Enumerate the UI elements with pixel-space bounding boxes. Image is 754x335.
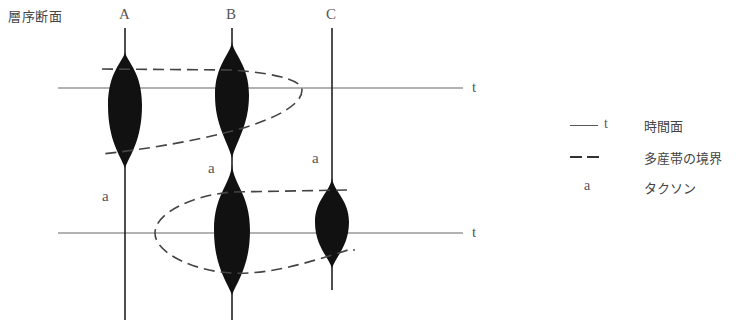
taxon-label-a-section-b: a — [208, 160, 215, 177]
stratigraphic-diagram — [0, 0, 754, 335]
legend-item-time-plane: t 時間面 — [570, 115, 683, 135]
legend-symbol-a: a — [584, 178, 590, 194]
solid-line-sample — [570, 125, 598, 126]
taxon-label-a-section-a: a — [102, 188, 109, 205]
section-label-c: C — [326, 6, 336, 23]
time-plane-label-upper: t — [472, 79, 476, 96]
legend-label-taxon: タクソン — [644, 178, 696, 197]
legend-label-boundary: 多産帯の境界 — [644, 148, 722, 167]
boundary-endpoint-dot — [353, 249, 355, 251]
legend-symbol-t: t — [604, 116, 608, 132]
legend-item-taxon: a タクソン — [570, 177, 696, 197]
dash-segment — [570, 156, 582, 158]
time-plane-label-lower: t — [472, 224, 476, 241]
section-label-b: B — [226, 6, 236, 23]
acme-zone-b-lower — [214, 165, 250, 295]
legend-symbol-letter: a — [570, 177, 630, 197]
legend-symbol-dashed-line — [570, 147, 630, 167]
legend-symbol-solid-line: t — [570, 115, 630, 135]
acme-zone-b-upper — [215, 42, 249, 158]
legend-item-boundary: 多産帯の境界 — [570, 147, 722, 167]
dash-segment — [587, 156, 599, 158]
legend-label-time-plane: 時間面 — [644, 116, 683, 135]
acme-zone-c — [315, 178, 349, 268]
taxon-label-a-section-c: a — [312, 150, 319, 167]
section-label-a: A — [119, 6, 130, 23]
figure-title: 層序断面 — [8, 6, 62, 25]
